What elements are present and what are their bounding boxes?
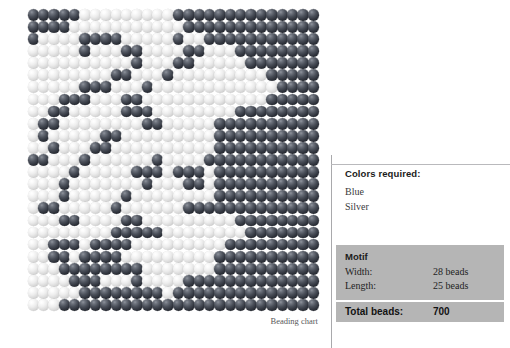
bead: [48, 69, 59, 81]
bead: [214, 106, 225, 118]
bead: [183, 227, 194, 239]
bead: [214, 9, 225, 21]
bead: [297, 142, 308, 154]
bead: [297, 190, 308, 202]
bead: [131, 142, 142, 154]
bead: [131, 69, 142, 81]
bead: [183, 130, 194, 142]
bead: [214, 227, 225, 239]
bead: [48, 202, 59, 214]
bead: [297, 118, 308, 130]
bead: [100, 299, 111, 311]
bead: [183, 21, 194, 33]
bead: [131, 33, 142, 45]
chart-caption: Beading chart: [0, 316, 318, 326]
bead: [131, 251, 142, 263]
bead: [131, 94, 142, 106]
bead: [100, 190, 111, 202]
beading-chart-panel: Beading chart: [0, 0, 325, 348]
bead: [308, 299, 319, 311]
bead: [308, 287, 319, 299]
bead: [308, 21, 319, 33]
bead: [183, 81, 194, 93]
bead: [100, 202, 111, 214]
bead: [183, 299, 194, 311]
bead: [214, 57, 225, 69]
bead: [308, 106, 319, 118]
legend-title: Colors required:: [345, 168, 510, 179]
bead: [266, 251, 277, 263]
bead: [266, 263, 277, 275]
bead: [100, 118, 111, 130]
bead: [131, 81, 142, 93]
total-beads-label: Total beads:: [345, 306, 403, 317]
bead: [297, 215, 308, 227]
bead: [308, 9, 319, 21]
bead: [48, 154, 59, 166]
bead: [214, 21, 225, 33]
bead: [214, 130, 225, 142]
bead: [131, 21, 142, 33]
bead: [297, 178, 308, 190]
bead: [100, 69, 111, 81]
bead: [266, 118, 277, 130]
bead: [48, 227, 59, 239]
bead: [308, 130, 319, 142]
bead: [297, 94, 308, 106]
bead-grid: [28, 9, 319, 311]
bead: [214, 190, 225, 202]
bead: [308, 81, 319, 93]
bead: [183, 57, 194, 69]
bead: [214, 263, 225, 275]
bead: [308, 190, 319, 202]
bead: [214, 154, 225, 166]
motif-label-length: Length:: [345, 279, 376, 293]
bead: [48, 287, 59, 299]
bead: [100, 81, 111, 93]
bead: [183, 142, 194, 154]
bead: [297, 275, 308, 287]
bead: [308, 166, 319, 178]
bead: [131, 202, 142, 214]
total-beads-value: 700: [433, 306, 495, 317]
bead: [183, 275, 194, 287]
bead: [297, 251, 308, 263]
bead: [297, 81, 308, 93]
bead: [214, 239, 225, 251]
bead: [297, 166, 308, 178]
bead: [308, 251, 319, 263]
bead: [214, 178, 225, 190]
bead: [266, 190, 277, 202]
silver-bead-icon: [326, 201, 337, 212]
bead: [183, 215, 194, 227]
bead: [183, 106, 194, 118]
bead: [266, 299, 277, 311]
bead: [214, 275, 225, 287]
bead: [183, 94, 194, 106]
bead: [308, 263, 319, 275]
bead: [100, 251, 111, 263]
bead: [266, 178, 277, 190]
bead: [183, 287, 194, 299]
bead: [48, 263, 59, 275]
motif-row-length: Length: 25 beads: [345, 279, 495, 293]
bead: [266, 239, 277, 251]
motif-table-body: Motif Width: 28 beads Length: 25 beads: [336, 245, 504, 300]
bead: [48, 239, 59, 251]
bead: [214, 142, 225, 154]
bead: [308, 33, 319, 45]
bead: [131, 263, 142, 275]
bead: [297, 202, 308, 214]
bead: [131, 118, 142, 130]
bead: [183, 251, 194, 263]
bead: [183, 190, 194, 202]
bead: [131, 215, 142, 227]
bead: [308, 118, 319, 130]
bead: [297, 21, 308, 33]
bead: [48, 275, 59, 287]
bead: [214, 202, 225, 214]
bead: [48, 106, 59, 118]
bead: [183, 166, 194, 178]
bead: [266, 33, 277, 45]
bead: [48, 9, 59, 21]
